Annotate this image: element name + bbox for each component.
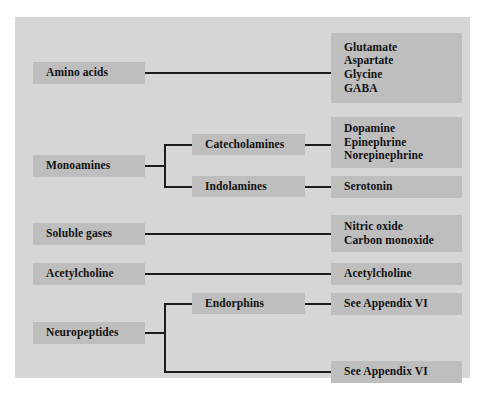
box-indolamines[interactable]: Indolamines xyxy=(192,176,305,197)
soluble-gas-example-1: Nitric oxide xyxy=(344,220,462,234)
box-soluble-gases-label: Soluble gases xyxy=(46,227,145,241)
connector-monoamines-branch xyxy=(164,144,166,188)
neuropeptide-example-1: See Appendix VI xyxy=(344,365,462,379)
box-amino-acids[interactable]: Amino acids xyxy=(33,62,145,84)
box-amino-acid-examples[interactable]: Glutamate Aspartate Glycine GABA xyxy=(331,33,462,103)
box-acetylcholine-examples[interactable]: Acetylcholine xyxy=(331,263,462,285)
connector-indolamine-examples xyxy=(305,186,331,188)
box-acetylcholine-label: Acetylcholine xyxy=(46,267,145,281)
indolamine-example-1: Serotonin xyxy=(344,180,462,194)
connector-neuropeptide-examples xyxy=(164,371,331,373)
soluble-gas-example-2: Carbon monoxide xyxy=(344,234,462,248)
connector-neuropeptides-stem xyxy=(145,332,166,334)
connector-endorphin-examples xyxy=(305,303,331,305)
box-indolamine-examples[interactable]: Serotonin xyxy=(331,176,462,198)
connector-soluble-gases xyxy=(145,233,331,235)
connector-indolamines xyxy=(164,186,192,188)
box-endorphins-label: Endorphins xyxy=(205,297,305,311)
connector-monoamines-stem xyxy=(145,165,166,167)
box-indolamines-label: Indolamines xyxy=(205,180,305,194)
connector-catecholamines xyxy=(164,144,192,146)
amino-acid-example-4: GABA xyxy=(344,82,462,96)
box-acetylcholine[interactable]: Acetylcholine xyxy=(33,263,145,285)
catecholamine-example-2: Epinephrine xyxy=(344,136,462,150)
box-monoamines[interactable]: Monoamines xyxy=(33,155,145,177)
connector-catecholamine-examples xyxy=(305,144,331,146)
box-catecholamines-label: Catecholamines xyxy=(205,138,305,152)
box-neuropeptides-label: Neuropeptides xyxy=(46,326,145,340)
connector-acetylcholine xyxy=(145,273,331,275)
box-neuropeptide-examples[interactable]: See Appendix VI xyxy=(331,361,462,383)
catecholamine-example-1: Dopamine xyxy=(344,122,462,136)
box-soluble-gas-examples[interactable]: Nitric oxide Carbon monoxide xyxy=(331,215,462,252)
box-neuropeptides[interactable]: Neuropeptides xyxy=(33,322,145,344)
acetylcholine-example-1: Acetylcholine xyxy=(344,267,462,281)
box-endorphins[interactable]: Endorphins xyxy=(192,293,305,314)
box-endorphin-examples[interactable]: See Appendix VI xyxy=(331,293,462,315)
box-soluble-gases[interactable]: Soluble gases xyxy=(33,223,145,245)
box-catecholamines[interactable]: Catecholamines xyxy=(192,134,305,155)
connector-endorphins xyxy=(164,303,192,305)
amino-acid-example-3: Glycine xyxy=(344,68,462,82)
neurotransmitter-diagram: Amino acids Glutamate Aspartate Glycine … xyxy=(0,0,493,400)
connector-amino-acids xyxy=(145,72,331,74)
catecholamine-example-3: Norepinephrine xyxy=(344,149,462,163)
box-monoamines-label: Monoamines xyxy=(46,159,145,173)
amino-acid-example-1: Glutamate xyxy=(344,41,462,55)
connector-neuropeptides-branch xyxy=(164,303,166,373)
amino-acid-example-2: Aspartate xyxy=(344,54,462,68)
endorphin-example-1: See Appendix VI xyxy=(344,297,462,311)
diagram-panel: Amino acids Glutamate Aspartate Glycine … xyxy=(15,17,470,378)
box-catecholamine-examples[interactable]: Dopamine Epinephrine Norepinephrine xyxy=(331,117,462,168)
box-amino-acids-label: Amino acids xyxy=(46,66,145,80)
